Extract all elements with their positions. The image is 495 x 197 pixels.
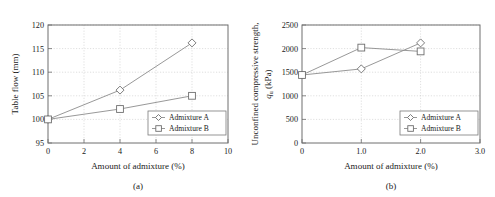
svg-text:qu (kPa): qu (kPa) <box>263 69 274 98</box>
panel-caption-b: (b) <box>386 181 397 191</box>
panel-caption-a: (a) <box>133 181 143 191</box>
x-tick-label: 10 <box>224 147 232 156</box>
x-tick-label: 0 <box>46 147 50 156</box>
y-tick-label: 1500 <box>282 68 298 77</box>
y-tick-label: 2000 <box>282 45 298 54</box>
y-tick-label: 95 <box>36 139 44 148</box>
x-tick-label: 8 <box>190 147 194 156</box>
legend-label-admixture-b: Admixture B <box>421 124 461 133</box>
x-axis-title: Amount of admixture (%) <box>91 161 185 171</box>
x-tick-label: 4 <box>118 147 122 156</box>
y-tick-label: 105 <box>32 92 44 101</box>
y-tick-label: 1000 <box>282 92 298 101</box>
x-tick-label: 6 <box>154 147 158 156</box>
chart-panel-b: 2500 2000 1500 1000 500 0 0 1.0 2.0 3.0 … <box>247 0 495 197</box>
x-tick-label: 1.0 <box>356 147 366 156</box>
legend-label-admixture-a: Admixture A <box>421 113 461 122</box>
legend-a: Admixture A Admixture B <box>148 111 226 135</box>
chart-a-svg: 120 115 110 105 100 95 0 2 4 6 8 10 Amou… <box>0 0 247 197</box>
x-tick-label: 2.0 <box>415 147 425 156</box>
y-axis-title-line2: qu (kPa) <box>263 69 274 98</box>
chart-b-svg: 2500 2000 1500 1000 500 0 0 1.0 2.0 3.0 … <box>247 0 495 197</box>
y-axis-title-line1: Unconfined compressive strength, <box>250 22 260 145</box>
y-axis-unit: (kPa) <box>263 69 273 91</box>
y-tick-label: 500 <box>286 115 298 124</box>
y-tick-label: 0 <box>294 139 298 148</box>
y-tick-label: 100 <box>32 115 44 124</box>
legend-label-admixture-b: Admixture B <box>169 124 209 133</box>
figure-container: 120 115 110 105 100 95 0 2 4 6 8 10 Amou… <box>0 0 495 197</box>
y-tick-label: 2500 <box>282 21 298 30</box>
chart-panel-a: 120 115 110 105 100 95 0 2 4 6 8 10 Amou… <box>0 0 247 197</box>
x-tick-label: 3.0 <box>475 147 485 156</box>
y-tick-label: 115 <box>32 45 44 54</box>
y-tick-label: 120 <box>32 21 44 30</box>
x-tick-label: 2 <box>82 147 86 156</box>
y-tick-label: 110 <box>32 68 44 77</box>
y-axis-title: Table flow (mm) <box>10 54 20 115</box>
legend-label-admixture-a: Admixture A <box>169 113 209 122</box>
x-tick-label: 0 <box>300 147 304 156</box>
x-axis-title: Amount of admixture (%) <box>344 161 438 171</box>
legend-b: Admixture A Admixture B <box>400 111 478 135</box>
